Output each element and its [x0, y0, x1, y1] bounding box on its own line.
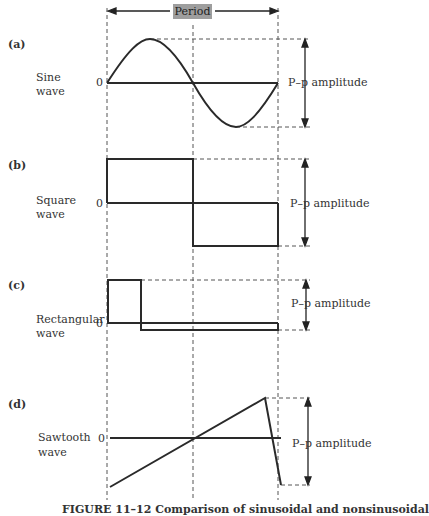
saw-zero: 0 — [98, 432, 105, 445]
sine-label-2: wave — [36, 85, 65, 98]
rect-pp-amplitude: P–p amplitude — [291, 297, 371, 310]
sine-zero: 0 — [96, 76, 103, 89]
period-label: Period — [173, 4, 212, 19]
saw-pp-amplitude: P–p amplitude — [292, 437, 372, 450]
rect-label-1: Rectangular — [36, 313, 104, 326]
sine-pp-amplitude: P–p amplitude — [288, 76, 368, 89]
square-label-2: wave — [36, 208, 65, 221]
square-pp-amplitude: P–p amplitude — [290, 197, 370, 210]
sawtooth-wave — [110, 398, 281, 487]
figure-caption: FIGURE 11–12 Comparison of sinusoidal an… — [62, 503, 429, 516]
rect-label-2: wave — [36, 327, 65, 340]
saw-label-1: Sawtooth — [38, 431, 91, 444]
panel-d-tag: (d) — [8, 398, 26, 411]
square-zero: 0 — [96, 197, 103, 210]
panel-a-tag: (a) — [8, 38, 26, 51]
panel-c-tag: (c) — [8, 279, 25, 292]
saw-label-2: wave — [38, 446, 67, 459]
sine-label-1: Sine — [36, 71, 61, 84]
square-label-1: Square — [36, 194, 76, 207]
rect-zero: 0 — [96, 317, 103, 330]
panel-b-tag: (b) — [8, 159, 26, 172]
